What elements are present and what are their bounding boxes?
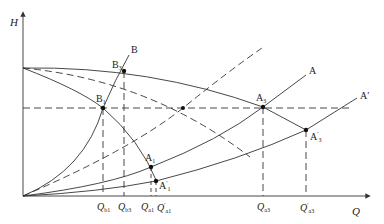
- x-tick-Qa1p: Q′a1: [157, 202, 171, 214]
- point-label-B3: B3: [112, 60, 122, 71]
- diagram-canvas: [0, 0, 384, 224]
- point-A3: [261, 105, 265, 109]
- x-tick-Qa1: Qa1: [141, 202, 154, 213]
- curve-label-B: B: [131, 45, 138, 55]
- pump-curve-diagram: H Q B A A′ B3 B1 A3 A′3 A1 A′1 Qb1 Qb3 Q…: [0, 0, 384, 224]
- point-mid: [181, 106, 185, 110]
- point-A3p: [304, 128, 308, 132]
- point-label-A3p: A′3: [310, 131, 322, 143]
- point-label-A3: A3: [256, 93, 266, 104]
- x-tick-Qa3p: Q′a3: [300, 202, 314, 214]
- point-label-A1: A1: [145, 153, 155, 164]
- point-A1: [149, 165, 153, 169]
- point-A1p: [154, 179, 158, 183]
- curve-label-A-prime: A′: [360, 91, 369, 101]
- point-B3: [122, 69, 126, 73]
- point-label-B1: B1: [96, 94, 106, 105]
- x-tick-Qa3: Qa3: [257, 202, 270, 213]
- system-curve-dashed: [23, 48, 262, 196]
- x-axis-label: Q: [352, 206, 360, 217]
- pump-curve-lower: [23, 68, 157, 182]
- system-curve-A-prime: [23, 98, 357, 196]
- system-curve-B: [23, 55, 129, 196]
- curve-label-A: A: [309, 66, 316, 76]
- point-B1: [101, 106, 105, 110]
- point-label-A1p: A′1: [159, 180, 171, 192]
- y-axis-label: H: [10, 17, 18, 28]
- x-tick-Qb1: Qb1: [97, 202, 110, 213]
- x-tick-Qb3: Qb3: [118, 202, 131, 213]
